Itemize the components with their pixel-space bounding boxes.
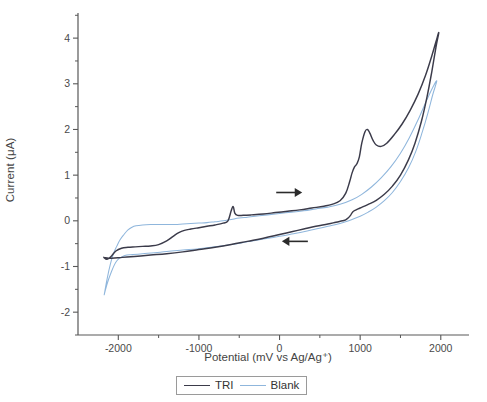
forward-scan-arrow-head <box>295 188 303 197</box>
legend-item-tri: TRI <box>184 379 234 391</box>
legend-label-blank: Blank <box>271 379 300 391</box>
curve-tri <box>104 33 439 260</box>
legend-label-tri: TRI <box>215 379 234 391</box>
legend-swatch-blank <box>240 385 266 386</box>
y-axis-title-wrap: Current (μA) <box>0 0 22 340</box>
data-curves <box>104 33 439 295</box>
svg-text:0: 0 <box>64 214 70 226</box>
curve-blank <box>104 81 437 295</box>
axis-tick-labels: 43210-1-2-2000-1000010002000 <box>61 32 453 354</box>
x-axis-title: Potential (mV vs Ag/Ag⁺) <box>78 350 458 364</box>
svg-text:2: 2 <box>64 123 70 135</box>
y-axis-title: Current (μA) <box>4 138 16 203</box>
svg-text:-2: -2 <box>61 306 70 318</box>
axis-ticks <box>73 15 441 340</box>
scan-direction-arrows <box>276 188 308 246</box>
reverse-scan-arrow-head <box>282 237 290 246</box>
svg-text:1: 1 <box>64 169 70 181</box>
cv-figure: 43210-1-2-2000-1000010002000 Current (μA… <box>0 0 487 402</box>
legend-item-blank: Blank <box>240 379 300 391</box>
plot-canvas: 43210-1-2-2000-1000010002000 <box>0 0 487 402</box>
axis-spines <box>78 13 469 335</box>
svg-text:-1: -1 <box>61 260 70 272</box>
svg-text:4: 4 <box>64 32 70 44</box>
legend: TRI Blank <box>176 376 307 395</box>
legend-swatch-tri <box>184 385 210 386</box>
svg-text:3: 3 <box>64 77 70 89</box>
